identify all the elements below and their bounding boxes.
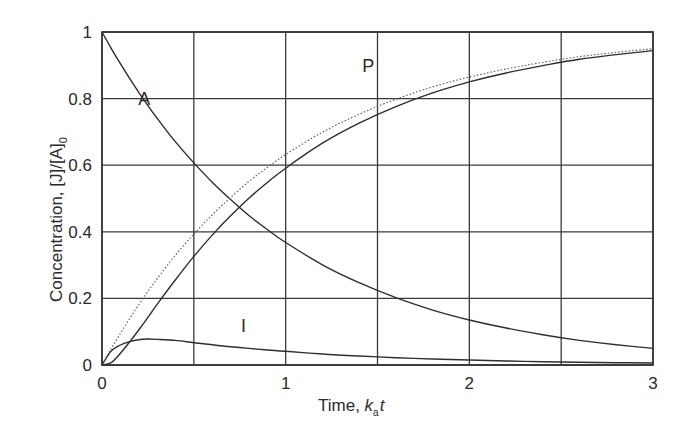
- concentration-time-chart: 00.20.40.60.81 0123 API Time, kat Concen…: [0, 0, 692, 430]
- x-tick-label: 1: [281, 374, 290, 393]
- y-tick-label: 0.2: [68, 289, 92, 308]
- y-tick-label: 0.8: [68, 90, 92, 109]
- y-tick-label: 0.6: [68, 156, 92, 175]
- x-tick-label: 2: [465, 374, 474, 393]
- curve-label-i: I: [241, 316, 246, 336]
- curve-label-p: P: [362, 56, 374, 76]
- x-tick-label: 3: [648, 374, 657, 393]
- y-tick-label: 1: [83, 23, 92, 42]
- x-axis-title: Time, kat: [318, 396, 386, 418]
- x-tick-label: 0: [97, 374, 106, 393]
- y-tick-label: 0: [83, 356, 92, 375]
- grid-lines: [102, 32, 653, 365]
- curve-labels: API: [138, 56, 374, 336]
- curve-label-a: A: [138, 89, 150, 109]
- y-axis-title: Concentration, [J]/[A]0: [47, 137, 69, 302]
- y-axis-tick-labels: 00.20.40.60.81: [68, 23, 92, 375]
- x-axis-tick-labels: 0123: [97, 374, 657, 393]
- y-tick-label: 0.4: [68, 223, 92, 242]
